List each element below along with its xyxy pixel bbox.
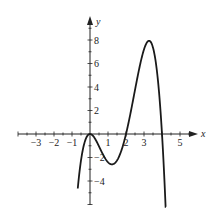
y-tick-label: −4 xyxy=(94,176,105,187)
y-tick-label: 2 xyxy=(94,105,99,116)
y-tick-label: 6 xyxy=(94,58,99,69)
chart-svg: −3−2−112358642−2−4 x y xyxy=(0,0,211,222)
x-tick-label: −3 xyxy=(31,137,42,148)
x-tick-label: 1 xyxy=(106,137,111,148)
x-tick-label: −1 xyxy=(67,137,78,148)
y-tick-label: 8 xyxy=(94,35,99,46)
x-axis-label: x xyxy=(200,128,206,139)
polynomial-graph: −3−2−112358642−2−4 x y xyxy=(0,0,211,222)
y-axis-label: y xyxy=(95,16,101,27)
axes xyxy=(18,16,198,205)
y-tick-label: 4 xyxy=(94,82,99,93)
x-tick-label: 5 xyxy=(178,137,183,148)
x-tick-label: 3 xyxy=(142,137,147,148)
x-tick-label: −2 xyxy=(49,137,60,148)
y-axis-arrow-icon xyxy=(87,16,93,25)
function-curve xyxy=(78,41,166,207)
x-axis-arrow-icon xyxy=(189,131,198,137)
